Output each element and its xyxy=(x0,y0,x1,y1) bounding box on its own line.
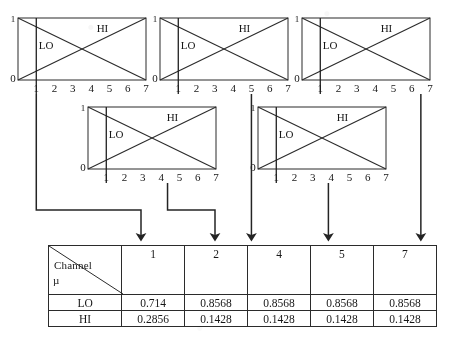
chart-4: 101234567LOHI xyxy=(80,103,219,183)
table-col-header-7: 7 xyxy=(373,246,436,295)
chart-3-xtick-2: 2 xyxy=(336,82,342,94)
charts-layer: 101234567LOHI101234567LOHI101234567LOHI1… xyxy=(10,14,433,183)
chart-3-y-top-label: 1 xyxy=(295,14,300,24)
chart-1-xtick-4: 4 xyxy=(88,82,94,94)
chart-5: 101234567LOHI xyxy=(250,103,389,183)
chart-5-xtick-3: 3 xyxy=(310,171,316,183)
chart-5-xtick-4: 4 xyxy=(328,171,334,183)
chart-4-y-zero-label: 0 xyxy=(80,161,86,173)
chart-2-lo-label: LO xyxy=(181,39,196,51)
chart-5-hi-label: HI xyxy=(337,111,349,123)
chart-4-xtick-6: 6 xyxy=(195,171,201,183)
chart-2-hi-label: HI xyxy=(239,22,251,34)
chart-1-xtick-2: 2 xyxy=(52,82,58,94)
chart-1-y-top-label: 1 xyxy=(11,14,16,24)
chart-1-connector-path xyxy=(36,94,141,237)
table-col-header-1: 1 xyxy=(122,246,185,295)
chart-4-lo-label: LO xyxy=(109,128,124,140)
chart-4-xtick-3: 3 xyxy=(140,171,146,183)
table-cell-LO-1: 0.714 xyxy=(122,295,185,311)
table-row-label-HI: HI xyxy=(49,311,122,327)
table-col-header-5: 5 xyxy=(311,246,374,295)
chart-5-xtick-2: 2 xyxy=(292,171,298,183)
chart-2: 101234567LOHI xyxy=(152,14,291,94)
corner-column-label: Channel xyxy=(54,259,92,271)
chart-4-y-top-label: 1 xyxy=(81,103,86,113)
chart-5-xtick-6: 6 xyxy=(365,171,371,183)
corner-row-label: µ xyxy=(53,274,59,286)
chart-1-xtick-6: 6 xyxy=(125,82,131,94)
table-row: HI0.28560.14280.14280.14280.1428 xyxy=(49,311,437,327)
chart-5-lo-label: LO xyxy=(279,128,294,140)
table-row-label-LO: LO xyxy=(49,295,122,311)
table-cell-LO-2: 0.8568 xyxy=(185,295,248,311)
chart-3-xtick-3: 3 xyxy=(354,82,360,94)
chart-4-connector-path xyxy=(168,183,215,237)
chart-3-hi-label: HI xyxy=(381,22,393,34)
chart-1: 101234567LOHI xyxy=(10,14,149,94)
chart-3-xtick-6: 6 xyxy=(409,82,415,94)
chart-2-xtick-5: 5 xyxy=(249,82,255,94)
chart-1-xtick-3: 3 xyxy=(70,82,76,94)
table-cell-LO-7: 0.8568 xyxy=(373,295,436,311)
chart-2-xtick-3: 3 xyxy=(212,82,218,94)
chart-4-hi-label: HI xyxy=(167,111,179,123)
chart-3-lo-label: LO xyxy=(323,39,338,51)
chart-1-connector xyxy=(36,94,141,237)
chart-4-xtick-2: 2 xyxy=(122,171,128,183)
figure-canvas: 101234567LOHI101234567LOHI101234567LOHI1… xyxy=(0,0,454,342)
chart-5-xtick-5: 5 xyxy=(347,171,353,183)
chart-1-lo-label: LO xyxy=(39,39,54,51)
chart-2-xtick-2: 2 xyxy=(194,82,200,94)
result-table: Channelµ12457LO0.7140.85680.85680.85680.… xyxy=(48,245,437,327)
table-cell-LO-4: 0.8568 xyxy=(248,295,311,311)
chart-3-xtick-4: 4 xyxy=(372,82,378,94)
chart-2-xtick-6: 6 xyxy=(267,82,273,94)
result-table-body: Channelµ12457LO0.7140.85680.85680.85680.… xyxy=(49,246,437,327)
chart-1-hi-label: HI xyxy=(97,22,109,34)
table-row: LO0.7140.85680.85680.85680.8568 xyxy=(49,295,437,311)
chart-4-connector xyxy=(168,183,215,237)
chart-3-xtick-5: 5 xyxy=(391,82,397,94)
chart-2-y-zero-label: 0 xyxy=(152,72,158,84)
chart-1-xtick-7: 7 xyxy=(143,82,149,94)
chart-3: 101234567LOHI xyxy=(294,14,433,94)
table-col-header-2: 2 xyxy=(185,246,248,295)
chart-4-xtick-5: 5 xyxy=(177,171,183,183)
table-corner-cell: Channelµ xyxy=(49,246,122,295)
table-cell-HI-2: 0.1428 xyxy=(185,311,248,327)
table-col-header-4: 4 xyxy=(248,246,311,295)
chart-4-xtick-4: 4 xyxy=(158,171,164,183)
chart-1-xtick-5: 5 xyxy=(107,82,113,94)
chart-3-y-zero-label: 0 xyxy=(294,72,300,84)
table-cell-HI-4: 0.1428 xyxy=(248,311,311,327)
table-cell-LO-5: 0.8568 xyxy=(311,295,374,311)
chart-2-y-top-label: 1 xyxy=(153,14,158,24)
chart-2-xtick-7: 7 xyxy=(285,82,291,94)
chart-2-xtick-4: 4 xyxy=(230,82,236,94)
table-cell-HI-5: 0.1428 xyxy=(311,311,374,327)
table-cell-HI-1: 0.2856 xyxy=(122,311,185,327)
chart-5-xtick-7: 7 xyxy=(383,171,389,183)
table-header-row: Channelµ12457 xyxy=(49,246,437,295)
table-cell-HI-7: 0.1428 xyxy=(373,311,436,327)
chart-3-xtick-7: 7 xyxy=(427,82,433,94)
chart-1-y-zero-label: 0 xyxy=(10,72,16,84)
chart-4-xtick-7: 7 xyxy=(213,171,219,183)
